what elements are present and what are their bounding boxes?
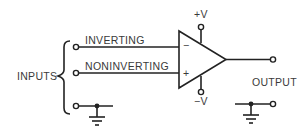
pos-supply-terminal [198,24,203,29]
output-ground-icon [243,104,259,123]
output-label: OUTPUT [252,76,297,88]
noninverting-label: NONINVERTING [85,60,169,72]
input-ground-icon [89,106,105,125]
inverting-input-terminal [73,44,78,49]
op-amp-diagram: INPUTS INVERTING NONINVERTING − + +V −V … [0,0,307,139]
plus-sign: + [183,67,189,79]
output-terminal [270,57,275,62]
noninverting-input-terminal [73,70,78,75]
inputs-label: INPUTS [17,70,57,82]
minus-sign: − [183,39,189,51]
pos-supply-label: +V [194,8,208,20]
inverting-label: INVERTING [85,34,145,46]
output-ground-terminal [270,101,275,106]
neg-supply-terminal [198,89,203,94]
input-ground-terminal [73,103,78,108]
neg-supply-label: −V [194,95,208,107]
inputs-brace [58,41,70,114]
